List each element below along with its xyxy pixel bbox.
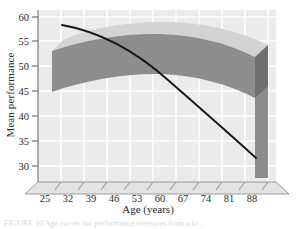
y-tick-label: 55: [19, 36, 30, 47]
y-axis-tick-labels: 60 55 50 45 40 35 30: [19, 12, 30, 172]
y-tick-label: 45: [19, 86, 30, 97]
y-tick-label: 60: [19, 12, 30, 23]
y-tick-label: 40: [19, 111, 30, 122]
figure-container: 60 55 50 45 40 35 30 25 32 39: [0, 0, 296, 229]
age-performance-chart: 60 55 50 45 40 35 30 25 32 39: [0, 0, 296, 229]
y-axis-ticks: [32, 17, 38, 166]
figure-caption: FIGURE 10 Age curves for performance mea…: [4, 219, 296, 228]
x-axis-title: Age (years): [0, 203, 296, 215]
y-tick-label: 50: [19, 61, 30, 72]
y-tick-label: 30: [19, 161, 30, 172]
band-bottom-shadow: [255, 86, 268, 178]
y-tick-label: 35: [19, 136, 30, 147]
